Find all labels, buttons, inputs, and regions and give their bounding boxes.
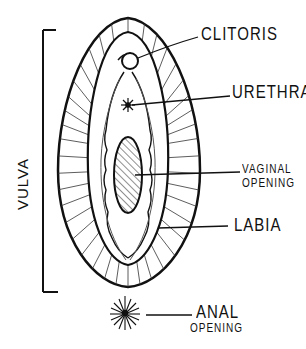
urethra-label: URETHRA bbox=[232, 82, 306, 101]
vaginal-opening-label-line2: OPENING bbox=[242, 177, 295, 189]
clitoris-label: CLITORIS bbox=[201, 24, 278, 43]
labia-label: LABIA bbox=[234, 215, 282, 234]
anal-opening-label-line2: OPENING bbox=[190, 322, 243, 334]
vulva-anatomy-diagram: VULVA CLITORIS URETHRA VAGINAL OPENING L… bbox=[0, 0, 306, 349]
vaginal-opening-label-line1: VAGINAL bbox=[242, 163, 292, 175]
anal-opening bbox=[110, 296, 140, 330]
vulva-bracket-label: VULVA bbox=[14, 158, 31, 210]
vulva-bracket bbox=[43, 30, 58, 292]
clitoris bbox=[122, 53, 138, 69]
anal-opening-label-line1: ANAL bbox=[196, 302, 239, 321]
